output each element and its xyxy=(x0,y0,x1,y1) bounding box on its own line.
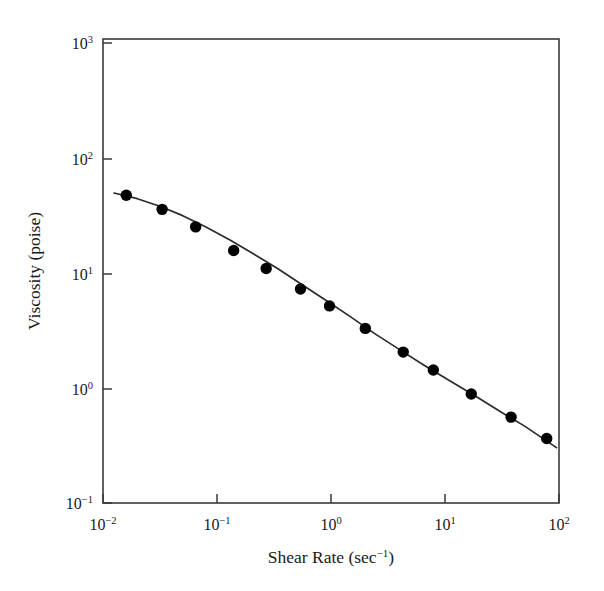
y-tick-label-100: 102 xyxy=(72,150,93,168)
data-point xyxy=(228,245,239,256)
data-point xyxy=(324,300,335,311)
fitted-curve xyxy=(114,193,556,448)
chart-svg: 103 102 101 100 10−1 10−2 10−1 xyxy=(0,0,604,591)
data-point xyxy=(156,204,167,215)
x-axis-title: Shear Rate (sec−1) xyxy=(268,547,395,567)
x-tick-label-1: 100 xyxy=(320,515,341,533)
x-tick-label-10: 101 xyxy=(434,515,455,533)
y-axis-ticks xyxy=(103,43,112,503)
y-tick-label-10: 101 xyxy=(72,265,93,283)
y-tick-label-1: 100 xyxy=(72,380,93,398)
y-tick-label-0.1: 10−1 xyxy=(66,494,93,512)
data-point xyxy=(398,346,409,357)
x-axis-ticks xyxy=(103,494,559,503)
x-tick-label-0.01: 10−2 xyxy=(89,515,116,533)
data-point xyxy=(360,323,371,334)
data-point xyxy=(428,364,439,375)
plot-frame xyxy=(103,39,559,503)
data-point xyxy=(541,433,552,444)
data-point xyxy=(466,388,477,399)
data-point xyxy=(121,190,132,201)
data-point xyxy=(505,411,516,422)
data-point xyxy=(190,221,201,232)
data-point xyxy=(260,263,271,274)
y-axis-tick-labels: 103 102 101 100 10−1 xyxy=(66,34,93,512)
y-axis-title: Viscosity (poise) xyxy=(24,212,44,330)
viscosity-shear-rate-chart: 103 102 101 100 10−1 10−2 10−1 xyxy=(0,0,604,591)
x-tick-label-100: 102 xyxy=(548,515,569,533)
y-tick-label-1000: 103 xyxy=(72,34,93,52)
x-axis-tick-labels: 10−2 10−1 100 101 102 xyxy=(89,515,569,533)
x-tick-label-0.1: 10−1 xyxy=(203,515,230,533)
data-point-markers xyxy=(121,190,553,445)
data-point xyxy=(295,283,306,294)
